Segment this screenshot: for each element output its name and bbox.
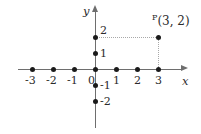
y-axis-arrow-icon [92,5,98,12]
tick-dot-x-neg2 [51,67,56,72]
x-tick-label-pos1: 1 [113,75,120,86]
tick-dot-y-pos2 [93,35,98,40]
tick-dot-origin [93,67,98,72]
y-tick-label-neg2: -2 [100,96,111,107]
point-label-P: P(3, 2) [152,14,190,27]
point-coords-text: (3, 2) [157,14,189,28]
tick-dot-x-neg1 [72,67,77,72]
y-tick-label-pos2: 2 [100,25,107,36]
guide-line-vertical [158,37,159,69]
x-tick-label-neg2: -2 [46,75,57,86]
tick-dot-y-neg2 [93,99,98,104]
y-tick-label-pos1: 1 [100,48,107,59]
x-tick-label-neg1: -1 [67,75,78,86]
origin-label: 0 [88,75,95,86]
guide-line-horizontal [95,37,158,38]
x-axis-label: x [182,76,189,88]
x-tick-label-pos2: 2 [134,75,141,86]
data-point-P [156,35,161,40]
x-tick-label-neg3: -3 [25,75,36,86]
tick-dot-x-neg3 [30,67,35,72]
tick-dot-x-pos3 [156,67,161,72]
y-axis-label: y [83,6,90,18]
x-tick-label-pos3: 3 [155,75,162,86]
y-tick-label-neg1: -1 [100,80,111,91]
tick-dot-y-pos1 [93,51,98,56]
tick-dot-x-pos2 [135,67,140,72]
x-axis-arrow-icon [181,65,188,71]
tick-dot-x-pos1 [114,67,119,72]
coordinate-plane-figure: -3 -2 -1 0 1 2 3 2 1 -1 -2 x y P(3, 2) [0,0,201,134]
